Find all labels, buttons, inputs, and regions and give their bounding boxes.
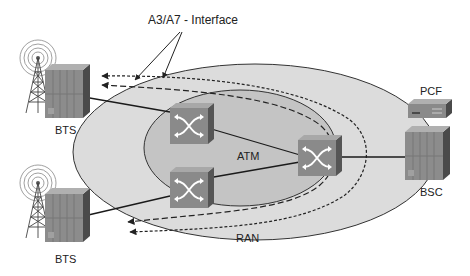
atm-switch-core[interactable] bbox=[298, 135, 342, 176]
diagram-graphics bbox=[0, 0, 470, 276]
bts-bottom-label: BTS bbox=[55, 253, 76, 265]
pcf-label: PCF bbox=[420, 85, 442, 97]
ran-label: RAN bbox=[236, 232, 259, 244]
atm-label: ATM bbox=[237, 150, 259, 162]
ran-diagram: A3/A7 - Interface BTS BTS PCF BSC ATM RA… bbox=[0, 0, 470, 276]
atm-switch-top[interactable] bbox=[170, 103, 214, 144]
interface-callout-label: A3/A7 - Interface bbox=[148, 13, 238, 27]
callout-arrow-1 bbox=[135, 32, 180, 80]
callout-arrow-2 bbox=[163, 32, 182, 78]
bsc-cabinet[interactable] bbox=[405, 126, 450, 180]
atm-switch-bottom[interactable] bbox=[170, 167, 214, 208]
bts-bottom-cabinet[interactable] bbox=[45, 188, 90, 242]
pcf-device[interactable] bbox=[408, 99, 452, 118]
bsc-label: BSC bbox=[420, 186, 443, 198]
bts-top-label: BTS bbox=[55, 124, 76, 136]
bts-top-cabinet[interactable] bbox=[45, 64, 90, 118]
